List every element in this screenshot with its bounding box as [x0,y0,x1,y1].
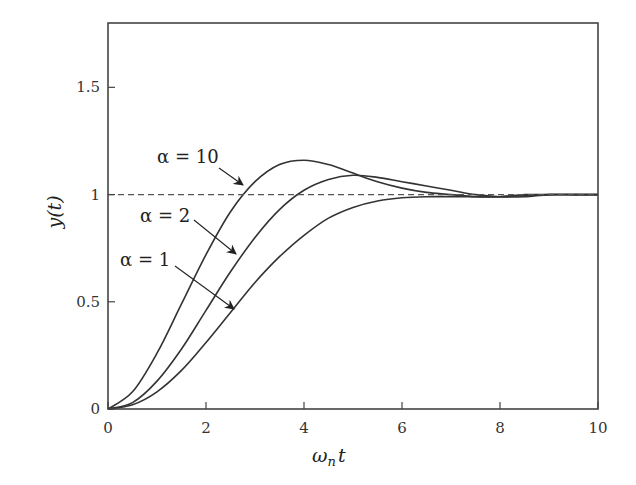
x-axis-label: ωnt [312,444,346,469]
x-tick-label: 2 [201,419,211,437]
y-tick-label: 1 [90,186,100,204]
x-tick-label: 6 [397,419,407,437]
series-line-0 [108,160,598,409]
annotation-alpha-2: α = 2 [140,205,190,226]
x-tick-label: 8 [495,419,505,437]
annotation-alpha-1: α = 1 [120,249,170,270]
plot-curves [108,160,598,409]
arrow-alpha-2 [194,220,236,254]
y-tick-label: 0 [90,400,100,418]
y-tick-label: 1.5 [76,78,100,96]
step-response-chart: 024681000.511.5 α = 10 α = 2 α = 1 ωnt y… [0,0,636,485]
series-line-2 [108,195,598,409]
x-tick-label: 0 [103,419,113,437]
x-tick-label: 10 [588,419,607,437]
arrow-alpha-10 [219,168,243,185]
annotation-alpha-10: α = 10 [157,146,219,167]
y-axis-label: y(t) [43,195,65,229]
x-tick-label: 4 [299,419,309,437]
y-tick-label: 0.5 [76,293,100,311]
arrow-alpha-1 [175,266,234,309]
